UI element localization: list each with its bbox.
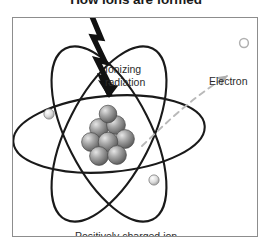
label-electron: Electron (209, 75, 248, 87)
electron-sphere (149, 175, 159, 185)
ion-formation-figure-root: How ions are formed (0, 0, 274, 250)
nucleon (90, 147, 109, 166)
page-title: How ions are formed (13, 0, 259, 8)
figure-frame: Ionizing radiation Electron Positively c… (12, 17, 258, 237)
atom-diagram-svg (13, 18, 258, 237)
label-positively-charged-ion: Positively charged ion (75, 230, 177, 237)
nucleon (99, 105, 117, 123)
nucleon (108, 146, 127, 165)
label-ionizing-radiation: Ionizing radiation (105, 63, 145, 88)
electron-sphere (44, 109, 54, 119)
ejected-electron-group (142, 39, 248, 146)
free-electron-circle (240, 39, 249, 48)
nucleus-cluster (82, 105, 135, 165)
